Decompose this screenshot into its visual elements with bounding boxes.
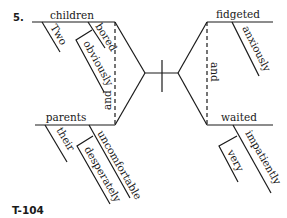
fork-line-right-top: [178, 22, 207, 73]
word-children: children: [50, 9, 94, 21]
word-impatiently: impatiently: [243, 128, 284, 186]
word-waited: waited: [221, 111, 257, 123]
word-fidgeted: fidgeted: [216, 8, 260, 20]
fork-line-left-bottom: [115, 73, 145, 125]
word-parents: parents: [46, 111, 87, 123]
word-their: their: [54, 125, 78, 154]
word-and-left: and: [101, 90, 113, 110]
exercise-number: 5.: [13, 12, 24, 23]
word-two: Two: [48, 22, 70, 47]
fork-line-right-bottom: [178, 73, 207, 125]
sentence-diagram: 5. children Two bored obviously and and …: [0, 0, 287, 218]
page-label: T-104: [12, 204, 44, 216]
word-very: very: [225, 146, 247, 173]
word-and-right: and: [209, 62, 221, 82]
fork-line-left-top: [115, 22, 145, 73]
